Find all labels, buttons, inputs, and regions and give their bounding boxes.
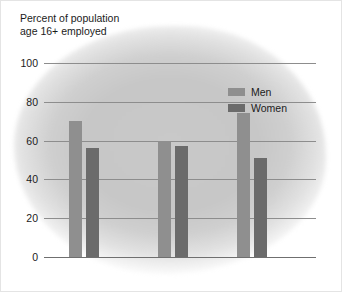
bar-hispanic-women <box>254 158 267 257</box>
gridline <box>44 63 316 64</box>
gridline <box>44 141 316 142</box>
x-axis-line <box>44 257 316 258</box>
bar-black-men <box>158 141 171 257</box>
legend-label-women: Women <box>251 102 287 114</box>
chart-title: Percent of population age 16+ employed <box>20 12 119 38</box>
y-tick-label: 0 <box>0 251 38 263</box>
y-tick-label: 40 <box>0 173 38 185</box>
chart-figure: Percent of population age 16+ employed 1… <box>0 0 342 292</box>
legend-swatch-men-icon <box>228 88 245 96</box>
y-tick-label: 60 <box>0 135 38 147</box>
bar-white-men <box>69 121 82 257</box>
y-tick-label: 20 <box>0 212 38 224</box>
y-tick-label: 80 <box>0 96 38 108</box>
bar-hispanic-men <box>237 113 250 257</box>
bar-white-women <box>86 148 99 257</box>
legend-item-women: Women <box>228 101 287 115</box>
legend-swatch-women-icon <box>228 104 245 112</box>
y-tick-label: 100 <box>0 57 38 69</box>
chart-legend: Men Women <box>228 85 287 117</box>
legend-label-men: Men <box>251 86 271 98</box>
legend-item-men: Men <box>228 85 287 99</box>
bar-black-women <box>175 146 188 257</box>
